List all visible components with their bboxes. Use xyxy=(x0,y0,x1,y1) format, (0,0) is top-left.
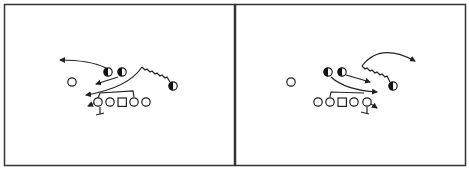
lineman-circle-icon xyxy=(106,98,114,106)
center-square-icon xyxy=(338,98,346,106)
defender-half-circle-icon xyxy=(338,68,346,76)
back-circle-icon xyxy=(287,78,295,86)
route-curve-right-icon xyxy=(362,53,415,66)
route-arrow-right-icon xyxy=(346,75,370,82)
zigzag-line-icon xyxy=(142,67,170,82)
pull-bracket-icon xyxy=(98,91,134,98)
lineman-circle-icon xyxy=(130,98,138,106)
diagram-canvas: Play diagram 1 Play diagram 2 xyxy=(0,0,469,172)
lineman-circle-icon xyxy=(314,98,322,106)
panel-left xyxy=(60,60,177,115)
panel-right-frame xyxy=(236,5,466,166)
defender-half-circle-icon xyxy=(169,82,177,90)
route-arrow-left-icon xyxy=(96,77,118,84)
lineman-circle-icon xyxy=(94,98,102,106)
zigzag-line-icon xyxy=(362,66,390,82)
panel-right xyxy=(287,53,415,114)
back-circle-icon xyxy=(68,78,76,86)
route-long-curve-icon xyxy=(86,67,142,95)
defender-half-circle-icon xyxy=(324,68,332,76)
route-long-curve-icon xyxy=(331,77,377,92)
lineman-circle-icon xyxy=(326,98,334,106)
defender-half-circle-icon xyxy=(104,68,112,76)
route-curve-left-icon xyxy=(60,60,106,68)
block-bar-icon xyxy=(361,112,369,114)
lineman-circle-icon xyxy=(350,98,358,106)
lineman-circle-icon xyxy=(363,98,371,106)
defender-half-circle-icon xyxy=(118,68,126,76)
motion-arrow-icon xyxy=(371,104,377,108)
center-square-icon xyxy=(118,98,126,106)
lineman-circle-icon xyxy=(142,98,150,106)
pull-bracket-icon xyxy=(330,92,364,97)
play-diagrams-svg xyxy=(0,0,469,172)
defender-half-circle-icon xyxy=(389,82,397,90)
